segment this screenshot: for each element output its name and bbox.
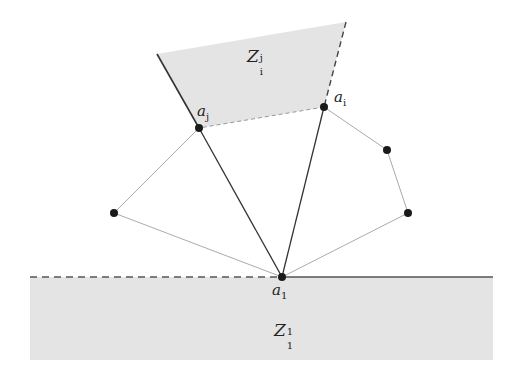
label-aj-sub: j [206,111,209,122]
label-z11-sup: 1 [287,327,293,337]
label-aj: aj [197,104,209,119]
edge-a1-left [114,213,282,277]
vertex-right-upper [383,146,391,154]
vertex-aj [195,124,203,132]
edge-rightlower-rightupper [387,150,408,213]
edge-a1-aj [199,128,282,277]
label-a1-base: a [272,281,281,299]
vertex-right-lower [404,209,412,217]
region-zij [157,22,346,128]
label-z11-base: Z [274,320,286,340]
region-z11 [30,277,493,360]
vertex-left [110,209,118,217]
edge-rightupper-ai [324,107,387,150]
vertex-ai [320,103,328,111]
label-ai: ai [334,90,346,105]
label-zij: Zji [247,48,259,65]
label-zij-sup: j [260,53,263,63]
label-z11-sub: 1 [287,341,293,351]
edge-a1-ai [282,107,324,277]
label-zij-base: Z [247,46,259,66]
label-ai-sub: i [343,97,346,108]
edge-left-aj [114,128,199,213]
vertex-a1 [278,273,286,281]
label-zij-sub: i [260,67,263,77]
label-z11: Z11 [274,322,286,339]
edge-a1-rightlower [282,213,408,277]
label-ai-base: a [334,88,343,106]
label-a1-sub: 1 [281,290,287,301]
diagram-canvas: aj ai a1 Zji Z11 [0,0,521,376]
label-a1: a1 [272,283,287,298]
label-aj-base: a [197,102,206,120]
